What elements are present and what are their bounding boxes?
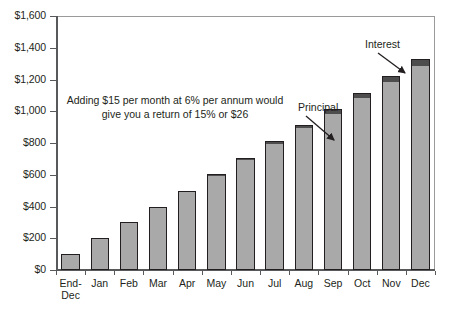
- principal-callout-arrow: [0, 0, 449, 321]
- bar-chart: $0$200$400$600$800$1,000$1,200$1,400$1,6…: [0, 0, 449, 321]
